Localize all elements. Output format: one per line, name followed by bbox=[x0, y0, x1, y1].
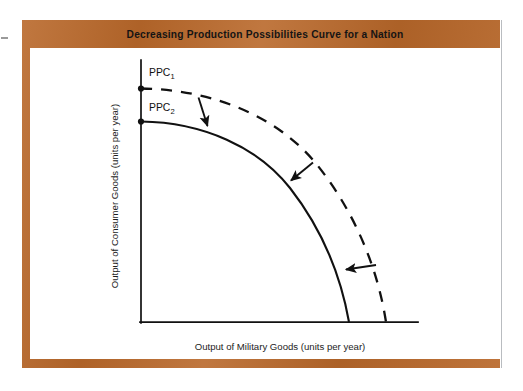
ppc2-label-subscript: 2 bbox=[170, 107, 174, 116]
chart-panel: PPC1 PPC2 Output of Consumer Goods (unit… bbox=[30, 48, 501, 359]
ppc1-label-subscript: 1 bbox=[170, 72, 174, 81]
ppc2-curve-group bbox=[138, 118, 349, 322]
ppc1-curve bbox=[141, 89, 386, 323]
ppc1-intercept-dot bbox=[138, 85, 144, 91]
ppc2-label: PPC2 bbox=[149, 102, 175, 116]
ppc1-label: PPC1 bbox=[149, 67, 175, 81]
margin-tick-mark bbox=[1, 37, 8, 39]
panel-right-edge bbox=[501, 20, 502, 368]
ppc2-label-text: PPC bbox=[149, 102, 171, 113]
ppc2-curve bbox=[141, 122, 349, 323]
shift-arrow-upper bbox=[199, 98, 208, 127]
ppc1-label-text: PPC bbox=[149, 67, 171, 78]
y-axis-label: Output of Consumer Goods (units per year… bbox=[109, 104, 120, 289]
ppc1-curve-group bbox=[138, 85, 386, 322]
x-axis-label: Output of Military Goods (units per year… bbox=[195, 341, 366, 352]
ppc-chart: PPC1 PPC2 Output of Consumer Goods (unit… bbox=[30, 48, 501, 359]
shift-arrow-middle bbox=[291, 163, 313, 181]
figure-title: Decreasing Production Possibilities Curv… bbox=[127, 29, 404, 40]
shift-arrow-lower bbox=[346, 265, 376, 270]
ppc2-intercept-dot bbox=[138, 118, 144, 124]
chart-axes bbox=[140, 60, 418, 323]
figure-title-bar: Decreasing Production Possibilities Curv… bbox=[30, 22, 500, 47]
